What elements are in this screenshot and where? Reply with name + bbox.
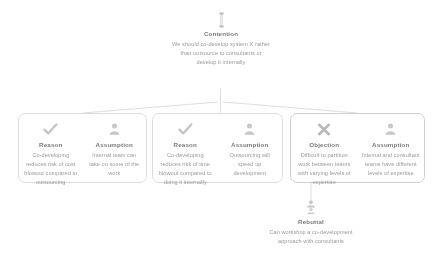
person-icon [222, 123, 279, 139]
person-icon [362, 123, 421, 139]
claim-body: Internal and consultant teams have diffe… [362, 151, 421, 178]
contention-body: We should co-develop system X rather tha… [171, 40, 271, 67]
claim-type-label: Assumption [222, 142, 279, 149]
claim-body: Difficult to partition work between team… [295, 151, 354, 187]
rebuttal-type-label: Rebuttal [265, 219, 357, 226]
claim-assumption-expertise-levels[interactable]: Assumption Internal and consultant teams… [358, 123, 425, 178]
claim-type-label: Objection [295, 142, 354, 149]
cross-icon [295, 123, 354, 139]
claim-type-label: Assumption [362, 142, 421, 149]
card-group-2[interactable]: Reason Co-developing reduces risk of tim… [152, 113, 283, 183]
rebuttal-icon [265, 200, 357, 216]
check-icon [23, 123, 79, 139]
contention-type-label: Contention [171, 31, 271, 38]
wire-to-card-3 [223, 102, 357, 113]
claim-reason-time[interactable]: Reason Co-developing reduces risk of tim… [153, 123, 218, 188]
claim-type-label: Reason [23, 142, 79, 149]
scales-icon [171, 12, 271, 28]
contention-node[interactable]: Contention We should co-develop system X… [171, 12, 271, 67]
wire-to-card-1 [83, 102, 218, 113]
card-group-3[interactable]: Objection Difficult to partition work be… [290, 113, 425, 183]
claim-reason-cost[interactable]: Reason Co-developing reduces risk of cos… [19, 123, 83, 188]
card-group-1[interactable]: Reason Co-developing reduces risk of cos… [18, 113, 147, 183]
claim-body: Outsourcing will speed up development [222, 151, 279, 178]
claim-body: Internal team can take on some of the wo… [87, 151, 143, 178]
rebuttal-node[interactable]: Rebuttal Can workshop a co-development a… [265, 200, 357, 246]
claim-assumption-outsourcing-speed[interactable]: Assumption Outsourcing will speed up dev… [218, 123, 283, 178]
check-icon [157, 123, 214, 139]
argument-map-canvas: Contention We should co-develop system X… [0, 0, 441, 268]
claim-type-label: Assumption [87, 142, 143, 149]
claim-body: Co-developing reduces risk of time blowo… [157, 151, 214, 187]
person-icon [87, 123, 143, 139]
claim-type-label: Reason [157, 142, 214, 149]
claim-body: Co-developing reduces risk of cost blowo… [23, 151, 79, 187]
rebuttal-body: Can workshop a co-development approach w… [265, 228, 357, 246]
claim-objection-partition[interactable]: Objection Difficult to partition work be… [291, 123, 358, 188]
claim-assumption-internal-team[interactable]: Assumption Internal team can take on som… [83, 123, 147, 178]
